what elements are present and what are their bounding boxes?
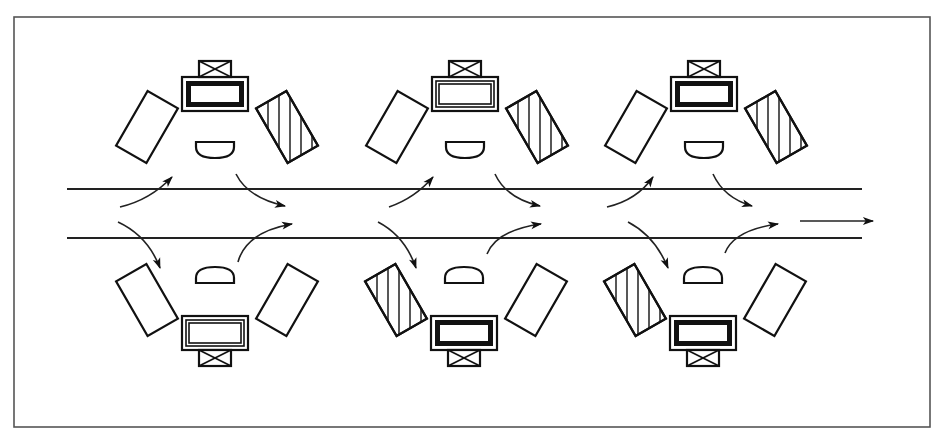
cross-box-icon bbox=[449, 61, 481, 77]
console bbox=[431, 316, 497, 350]
workcell-layout-diagram bbox=[0, 0, 939, 439]
cells bbox=[116, 43, 853, 384]
cross-box-icon bbox=[688, 61, 720, 77]
side-table-left bbox=[116, 91, 178, 163]
operator-seat bbox=[446, 142, 484, 158]
operator-seat bbox=[196, 267, 234, 283]
workcell-top-1 bbox=[116, 43, 364, 211]
workcell-bottom-1 bbox=[116, 264, 318, 366]
cross-box-icon bbox=[687, 350, 719, 366]
flow-arrow bbox=[238, 224, 292, 262]
cross-box-icon bbox=[199, 61, 231, 77]
console bbox=[182, 77, 248, 111]
operator-seat bbox=[196, 142, 234, 158]
flow-arrow bbox=[378, 222, 416, 268]
side-table-right bbox=[505, 264, 567, 336]
flow-arrow bbox=[118, 222, 160, 268]
side-table-right bbox=[744, 264, 806, 336]
workcell-bottom-3 bbox=[553, 216, 806, 384]
console bbox=[182, 316, 248, 350]
cross-box-icon bbox=[199, 350, 231, 366]
cross-box-icon bbox=[448, 350, 480, 366]
operator-seat bbox=[445, 267, 483, 283]
flow-arrow bbox=[120, 177, 172, 207]
workcell-top-3 bbox=[605, 43, 853, 211]
operator-seat bbox=[684, 267, 722, 283]
operator-seat bbox=[685, 142, 723, 158]
workcell-bottom-2 bbox=[314, 216, 567, 384]
console bbox=[670, 316, 736, 350]
flow-arrow bbox=[607, 177, 653, 207]
aisle-lines bbox=[67, 189, 862, 238]
side-table-right bbox=[256, 264, 318, 336]
console bbox=[432, 77, 498, 111]
side-table-left bbox=[605, 91, 667, 163]
flow-arrow bbox=[389, 177, 433, 207]
side-table-left bbox=[366, 91, 428, 163]
side-table-left bbox=[116, 264, 178, 336]
workcell-top-2 bbox=[366, 43, 614, 211]
console bbox=[671, 77, 737, 111]
flow-arrow bbox=[628, 222, 668, 268]
